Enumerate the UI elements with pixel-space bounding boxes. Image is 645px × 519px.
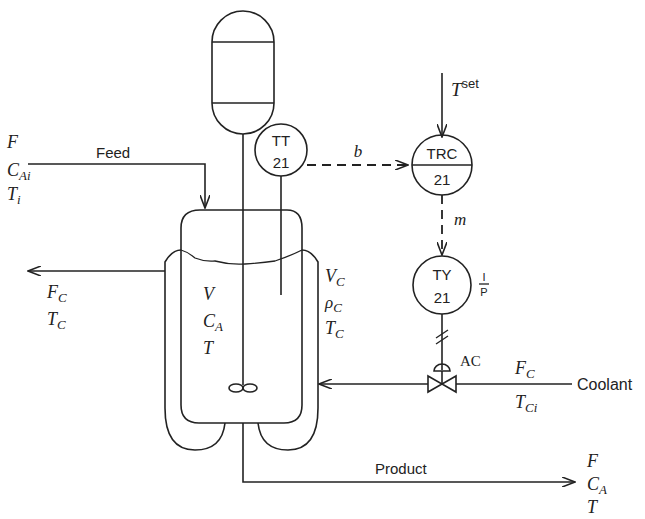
svg-text:TCi: TCi (515, 392, 538, 415)
svg-text:ρC: ρC (324, 293, 342, 315)
feed-variables: F CAi Ti (6, 132, 31, 207)
signal-m-label: m (454, 210, 466, 229)
coolant-label: Coolant (577, 376, 633, 393)
svg-text:FC: FC (514, 358, 535, 381)
coolant-out-variables: FC TC (46, 282, 67, 332)
product-label: Product (375, 460, 428, 477)
svg-text:CA: CA (587, 474, 607, 497)
svg-text:V: V (203, 284, 216, 304)
svg-text:F: F (6, 132, 19, 152)
svg-text:21: 21 (434, 171, 451, 188)
svg-text:TRC: TRC (427, 145, 458, 162)
liquid-level (181, 250, 302, 264)
temperature-transmitter-tt21[interactable]: TT 21 (255, 124, 307, 176)
svg-text:VC: VC (325, 266, 345, 289)
svg-text:I: I (482, 271, 485, 283)
coolant-in-variables: FC TCi (514, 358, 538, 415)
cstr-diagram: Feed F CAi Ti FC TC V CA T VC ρC TC TT 2… (0, 0, 645, 519)
current-to-pressure-converter-ty21[interactable]: TY 21 I P (413, 256, 489, 314)
svg-text:CAi: CAi (7, 160, 31, 183)
svg-text:TY: TY (432, 266, 451, 283)
svg-text:TC: TC (325, 318, 344, 341)
svg-text:21: 21 (434, 289, 451, 306)
agitator-motor (212, 11, 274, 134)
svg-text:TC: TC (47, 309, 66, 332)
feed-line (28, 164, 205, 208)
svg-text:T: T (587, 497, 599, 517)
svg-text:P: P (480, 286, 487, 298)
jacket-variables: VC ρC TC (324, 266, 345, 341)
impeller-icon (229, 384, 257, 392)
svg-text:F: F (586, 451, 599, 471)
product-variables: F CA T (586, 451, 607, 517)
svg-text:FC: FC (46, 282, 67, 305)
reactor-variables: V CA T (203, 284, 223, 358)
svg-text:21: 21 (273, 154, 290, 171)
svg-text:TT: TT (272, 132, 290, 149)
signal-b-label: b (354, 142, 363, 161)
feed-label: Feed (96, 144, 130, 161)
valve-action-label: AC (460, 353, 481, 369)
svg-text:Ti: Ti (7, 184, 21, 207)
svg-text:T: T (203, 338, 215, 358)
setpoint-label: Tset (451, 76, 479, 100)
temperature-recorder-controller-trc21[interactable]: TRC 21 (412, 135, 472, 195)
svg-text:CA: CA (203, 311, 223, 334)
